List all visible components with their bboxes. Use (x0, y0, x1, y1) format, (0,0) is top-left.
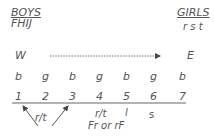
arrow-to-seat-3 (52, 106, 68, 126)
diagram-lines (0, 0, 214, 137)
arrow-to-seat-1 (23, 106, 38, 126)
